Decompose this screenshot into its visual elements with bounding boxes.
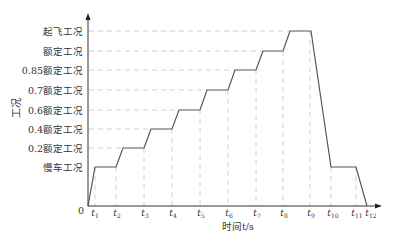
y-level-labels: 起飞工况 额定工况 0.85额定工况 0.7额定工况 0.6额定工况 0.4额定… [22, 26, 83, 173]
tick-label-t8: t8 [280, 208, 288, 219]
x-axis-title: 时间t/s [222, 221, 254, 232]
y-axis-arrow-icon [86, 13, 91, 20]
level-label-0.2: 0.2额定工况 [28, 143, 83, 154]
vertical-grid [95, 31, 356, 206]
level-label-0.7: 0.7额定工况 [28, 85, 83, 96]
level-label-0.4: 0.4额定工况 [28, 124, 83, 135]
x-tick-labels: t1 t2 t3 t4 t5 t6 t7 t8 t9 t10 t11 t12 [91, 208, 377, 219]
tick-label-t1: t1 [91, 208, 98, 219]
tick-label-t12: t12 [365, 208, 376, 219]
tick-label-t5: t5 [197, 208, 205, 219]
tick-label-t2: t2 [113, 208, 121, 219]
horizontal-grid [89, 31, 290, 148]
tick-label-t4: t4 [169, 208, 177, 219]
level-label-takeoff: 起飞工况 [43, 26, 83, 37]
tick-label-t7: t7 [253, 208, 261, 219]
workload-time-chart: 起飞工况 额定工况 0.85额定工况 0.7额定工况 0.6额定工况 0.4额定… [0, 0, 396, 242]
workload-curve [88, 31, 367, 206]
tick-label-t9: t9 [307, 208, 315, 219]
axes [88, 18, 376, 206]
x-axis-arrow-icon [375, 204, 382, 209]
tick-label-t11: t11 [351, 208, 362, 219]
tick-label-t10: t10 [327, 208, 338, 219]
tick-label-t6: t6 [225, 208, 233, 219]
level-label-0.6: 0.6额定工况 [28, 105, 83, 116]
level-label-rated: 额定工况 [43, 46, 83, 57]
origin-label: 0 [78, 205, 84, 216]
y-axis-title: 工况 [11, 98, 22, 118]
level-label-0.85: 0.85额定工况 [22, 65, 83, 76]
level-label-idle: 慢车工况 [43, 162, 83, 173]
tick-label-t3: t3 [141, 208, 149, 219]
